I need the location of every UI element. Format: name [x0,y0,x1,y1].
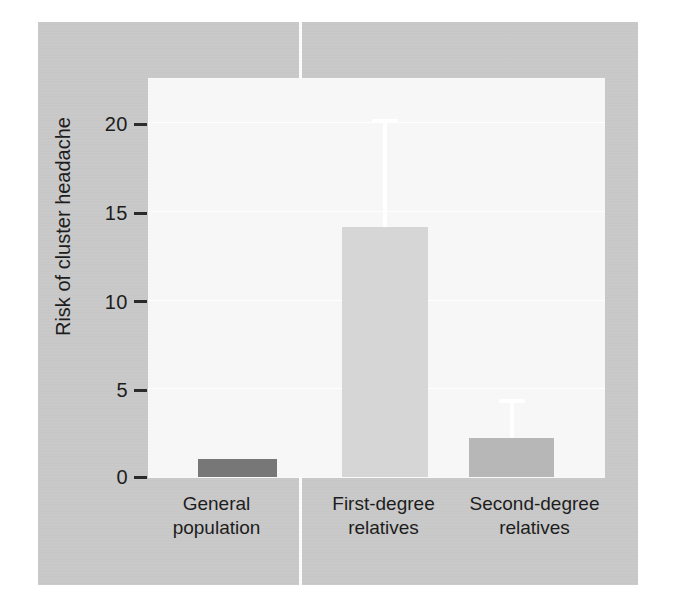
x-label-first-degree-line2: relatives [311,516,456,540]
x-label-second-degree-line1: Second-degree [470,493,600,514]
errorbar-stem-second-degree [510,399,514,438]
y-tick-mark-10 [134,300,147,303]
x-label-second-degree-line2: relatives [452,516,617,540]
bar-general-population[interactable] [198,459,277,477]
bar-second-degree-relatives[interactable] [469,438,554,477]
y-tick-label-5: 5 [88,379,128,402]
y-tick-mark-15 [134,212,147,215]
bar-first-degree-relatives[interactable] [342,227,428,477]
errorbar-cap-first-degree [372,119,398,123]
y-tick-mark-0 [134,476,147,479]
x-label-general-population: General population [154,492,279,541]
gridline-15 [148,211,605,212]
y-tick-label-20: 20 [88,113,128,136]
y-tick-mark-20 [134,123,147,126]
gridline-0 [148,477,605,478]
x-label-first-degree-line1: First-degree [332,493,434,514]
plot-area [148,78,605,477]
x-label-second-degree-relatives: Second-degree relatives [452,492,617,541]
y-axis-title: Risk of cluster headache [52,102,75,352]
y-tick-mark-5 [134,389,147,392]
errorbar-cap-second-degree [499,399,525,403]
x-label-general-population-line2: population [154,516,279,540]
y-tick-label-15: 15 [88,202,128,225]
errorbar-stem-first-degree [383,119,387,227]
y-tick-label-10: 10 [88,291,128,314]
chart-figure: Risk of cluster headache 20 15 10 5 0 Ge… [0,0,680,609]
x-label-general-population-line1: General [183,493,251,514]
y-tick-label-0: 0 [88,466,128,489]
x-label-first-degree-relatives: First-degree relatives [311,492,456,541]
